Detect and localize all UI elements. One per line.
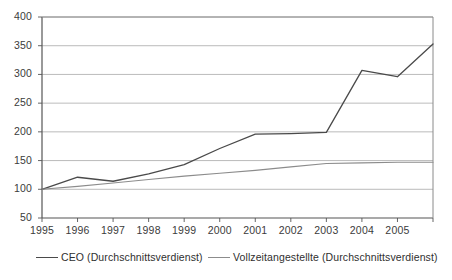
line-chart: 40035030025020015010050 1995199619971998… <box>0 0 452 280</box>
legend-item-ceo[interactable]: CEO (Durchschnittsverdienst) <box>36 249 203 265</box>
y-axis-tick-label: 250 <box>2 96 32 108</box>
x-axis-tick-label: 2004 <box>342 224 382 236</box>
y-axis-tick-label: 100 <box>2 182 32 194</box>
x-axis-ticks <box>42 218 433 222</box>
x-axis-tick-label: 2001 <box>235 224 275 236</box>
x-axis-tick-label: 1996 <box>58 224 98 236</box>
chart-legend: CEO (Durchschnittsverdienst) Vollzeitang… <box>0 249 452 271</box>
legend-item-employees[interactable]: Vollzeitangestellte (Durchschnittsverdie… <box>208 249 438 265</box>
x-axis-tick-label: 1999 <box>164 224 204 236</box>
x-axis-tick-label: 1997 <box>93 224 133 236</box>
gridlines <box>42 17 433 189</box>
y-axis-tick-label: 300 <box>2 67 32 79</box>
y-axis-tick-label: 350 <box>2 39 32 51</box>
x-axis-tick-label: 2003 <box>306 224 346 236</box>
x-axis-tick-label: 1998 <box>129 224 169 236</box>
legend-label-employees: Vollzeitangestellte (Durchschnittsverdie… <box>233 251 438 263</box>
x-axis-tick-label: 2005 <box>377 224 417 236</box>
legend-label-ceo: CEO (Durchschnittsverdienst) <box>61 251 203 263</box>
y-axis-tick-label: 50 <box>2 211 32 223</box>
legend-line-swatch-employees <box>208 257 230 258</box>
y-axis-tick-label: 150 <box>2 154 32 166</box>
x-axis-tick-label: 2002 <box>271 224 311 236</box>
chart-plot-area <box>0 0 452 280</box>
legend-line-swatch-ceo <box>36 257 58 258</box>
y-axis-tick-label: 400 <box>2 10 32 22</box>
series-line-ceo <box>42 44 433 189</box>
x-axis-tick-label: 1995 <box>22 224 62 236</box>
axis-lines <box>42 17 433 218</box>
x-axis-tick-label: 2000 <box>200 224 240 236</box>
series-line-employees <box>42 162 433 189</box>
data-series <box>42 44 433 189</box>
y-axis-tick-label: 200 <box>2 125 32 137</box>
